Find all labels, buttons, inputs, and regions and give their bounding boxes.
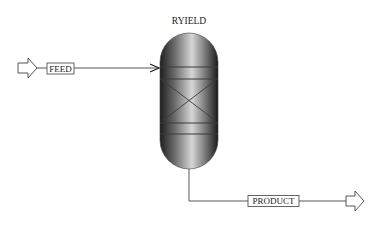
feed-inlet-arrow-icon <box>18 58 37 78</box>
block-title: RYIELD <box>172 16 206 26</box>
product-outlet-arrow-icon <box>346 191 364 211</box>
feed-stream[interactable]: FEED <box>18 58 159 78</box>
product-stream[interactable]: PRODUCT <box>189 169 364 211</box>
product-label: PRODUCT <box>252 196 295 206</box>
ryield-reactor-vessel[interactable] <box>160 33 218 169</box>
feed-label: FEED <box>49 64 72 74</box>
